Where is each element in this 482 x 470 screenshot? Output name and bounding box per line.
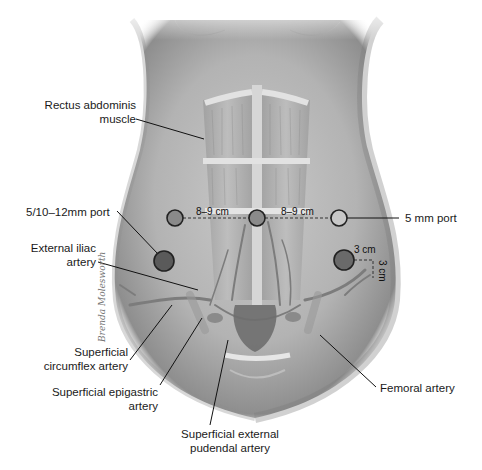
label-line: Superficial epigastric <box>20 385 158 399</box>
right-lower-port <box>334 250 354 270</box>
label-line: artery <box>20 399 158 413</box>
measurement-lower-right-vertical: 3 cm <box>377 260 388 282</box>
label-line: circumflex artery <box>6 359 128 373</box>
label-line: muscle <box>40 112 136 126</box>
umbilical-port <box>249 210 265 226</box>
label-femoral-artery: Femoral artery <box>380 381 455 395</box>
label-rectus-abdominis: Rectus abdominis muscle <box>40 98 136 126</box>
label-superficial-circumflex-artery: Superficial circumflex artery <box>6 345 128 373</box>
measurement-right-spacing: 8–9 cm <box>281 206 314 217</box>
artist-signature: Brenda Molesworth <box>97 252 107 342</box>
label-line: pudendal artery <box>160 441 300 455</box>
label-line: Superficial external <box>160 427 300 441</box>
label-superficial-epigastric-artery: Superficial epigastric artery <box>20 385 158 413</box>
label-line: artery <box>20 255 96 269</box>
label-line: Rectus abdominis <box>40 98 136 112</box>
measurement-left-spacing: 8–9 cm <box>196 206 229 217</box>
rectus-abdominis-muscle <box>203 85 310 305</box>
right-upper-port <box>331 210 347 226</box>
label-line: External iliac <box>20 241 96 255</box>
left-lower-port <box>154 251 174 271</box>
label-line: Superficial <box>6 345 128 359</box>
label-port-right: 5 mm port <box>405 211 457 225</box>
label-external-iliac-artery: External iliac artery <box>20 241 96 269</box>
left-upper-port <box>167 210 183 226</box>
label-superficial-external-pudendal-artery: Superficial external pudendal artery <box>160 427 300 455</box>
measurement-lower-right-horizontal: 3 cm <box>354 244 376 255</box>
label-port-left: 5/10–12mm port <box>26 205 110 219</box>
